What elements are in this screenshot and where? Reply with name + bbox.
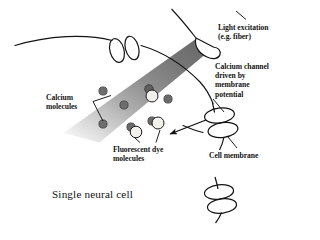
label-single-neural-cell: Single neural cell [52, 188, 133, 201]
label-calcium-molecules: Calcium molecules [46, 93, 77, 111]
calcium-molecule [164, 95, 172, 103]
calcium-molecule [99, 87, 107, 95]
label-light-excitation: Light excitation (e.g. fiber) [218, 23, 268, 41]
fluorescent-dye-molecule [146, 90, 158, 102]
label-calcium-channel: Calcium channel driven by membrane poten… [215, 62, 269, 99]
calcium-molecule [120, 101, 128, 109]
fluorescent-dye-molecule [152, 117, 164, 129]
label-cell-membrane: Cell membrane [209, 151, 258, 160]
label-fluorescent-dye: Fluorescent dye molecules [113, 145, 163, 163]
calcium-molecule [99, 120, 107, 128]
fluorescent-dye-molecule [130, 126, 142, 138]
